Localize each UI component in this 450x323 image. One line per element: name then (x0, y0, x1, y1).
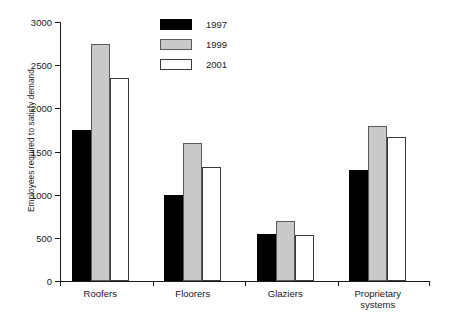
y-axis-tick (55, 195, 60, 196)
y-axis-tick-label: 0 (47, 276, 52, 287)
y-axis-tick-label: 1000 (31, 189, 52, 200)
y-axis-tick-label: 1500 (31, 146, 52, 157)
y-axis-tick-label: 2500 (31, 60, 52, 71)
bar (295, 235, 314, 281)
legend-swatch-icon (160, 19, 192, 30)
bar (349, 170, 368, 281)
bar (72, 130, 91, 281)
y-axis-tick (55, 238, 60, 239)
legend-label: 1999 (206, 39, 227, 50)
y-axis-tick (55, 152, 60, 153)
x-axis-tick (60, 281, 61, 286)
x-axis-tick (245, 281, 246, 286)
bar (110, 78, 129, 281)
bar (164, 195, 183, 281)
x-axis-tick (153, 281, 154, 286)
y-axis-tick-label: 3000 (31, 17, 52, 28)
legend-item: 1999 (160, 36, 227, 52)
legend-item: 1997 (160, 16, 227, 32)
x-axis-category-label: Proprietary systems (355, 288, 401, 310)
bar (202, 167, 221, 281)
y-axis-tick-label: 500 (36, 232, 52, 243)
bar (368, 126, 387, 281)
x-axis-category-label: Glaziers (268, 288, 303, 299)
y-axis-tick-label: 2000 (31, 103, 52, 114)
y-axis-line (60, 22, 61, 281)
bar-chart-figure: Employees required to satisfy demand 050… (0, 0, 450, 323)
x-axis-tick (429, 281, 430, 286)
legend-swatch-icon (160, 39, 192, 50)
bar (183, 143, 202, 281)
x-axis-tick (338, 281, 339, 286)
legend-swatch-icon (160, 59, 192, 70)
bar (276, 221, 295, 281)
bar (257, 234, 276, 281)
legend-label: 1997 (206, 19, 227, 30)
chart-legend: 199719992001 (160, 16, 227, 76)
y-axis-tick (55, 22, 60, 23)
x-axis-category-label: Floorers (175, 288, 210, 299)
legend-label: 2001 (206, 59, 227, 70)
plot-area: 050010001500200025003000 RoofersFloorers… (60, 22, 430, 281)
bar (387, 137, 406, 281)
y-axis-tick (55, 65, 60, 66)
legend-item: 2001 (160, 56, 227, 72)
x-axis-category-label: Roofers (84, 288, 117, 299)
bar (91, 44, 110, 281)
y-axis-tick (55, 108, 60, 109)
